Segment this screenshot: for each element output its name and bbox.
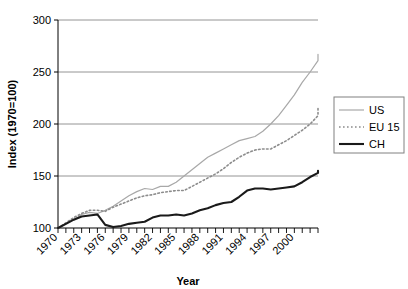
y-tick-label-300: 300 [33,14,51,26]
x-tick-label-1973: 1973 [57,231,83,257]
x-tick-label-2000: 2000 [270,231,296,257]
x-tick-label-1985: 1985 [152,231,178,257]
x-tick-label-1976: 1976 [81,231,107,257]
x-axis-title: Year [176,275,200,287]
legend-label-us: US [369,104,384,116]
series-line-eu-15 [58,108,318,228]
chart-canvas: 1001502002503001970197319761979198219851… [0,0,408,289]
series-line-us [58,54,318,228]
x-tick-label-1979: 1979 [105,231,131,257]
x-tick-label-1988: 1988 [175,231,201,257]
x-tick-label-1970: 1970 [34,231,60,257]
line-chart: 1001502002503001970197319761979198219851… [0,0,408,289]
y-tick-label-100: 100 [33,222,51,234]
y-tick-label-150: 150 [33,170,51,182]
y-tick-label-200: 200 [33,118,51,130]
y-tick-label-250: 250 [33,66,51,78]
x-tick-label-1997: 1997 [246,231,272,257]
series-line-ch [58,171,318,228]
legend-label-eu-15: EU 15 [369,121,400,133]
y-axis-title: Index (1970=100) [6,79,18,168]
legend-label-ch: CH [369,138,385,150]
x-tick-label-1982: 1982 [128,231,154,257]
x-tick-label-1994: 1994 [223,231,249,257]
x-tick-label-1991: 1991 [199,231,225,257]
